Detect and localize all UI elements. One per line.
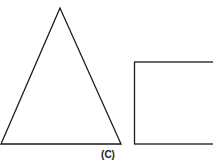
figure-label: (C) <box>97 149 119 160</box>
triangle-shape <box>1 8 121 144</box>
rectangle-shape <box>135 62 214 144</box>
diagram-canvas <box>0 0 213 167</box>
